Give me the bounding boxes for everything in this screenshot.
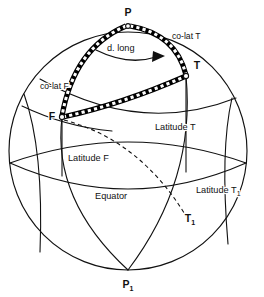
point-label-p1: P1 <box>123 278 134 292</box>
d-long-arrow-head <box>152 51 165 62</box>
point-label-t1: T1 <box>185 212 195 226</box>
label-co-lat-from: co-lat F <box>40 81 69 91</box>
point-label-t: T <box>194 59 201 71</box>
point-label-p: P <box>124 6 131 18</box>
figure-container: P F T T1 P1 co-lat F co-lat T d. long La… <box>0 0 264 297</box>
label-latitude-from: Latitude F <box>68 153 109 163</box>
label-latitude-to: Latitude T <box>155 122 196 132</box>
sphere-diagram: P F T T1 P1 co-lat F co-lat T d. long La… <box>0 0 264 297</box>
label-latitude-to-foot: Latitude T1 <box>196 185 241 197</box>
label-equator: Equator <box>95 191 127 201</box>
sphere-outline-circle <box>9 32 247 270</box>
point-label-f: F <box>49 110 56 122</box>
label-d-long: d. long <box>107 43 135 53</box>
point-t-dot <box>183 73 188 78</box>
point-p-dot <box>126 24 131 29</box>
point-f-dot <box>59 114 64 119</box>
meridian-to-lower <box>128 76 187 270</box>
equator-back-arc <box>10 142 246 163</box>
label-co-lat-to: co-lat T <box>172 31 201 41</box>
